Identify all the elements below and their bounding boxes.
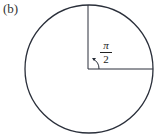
circle-diagram (0, 0, 157, 134)
angle-denominator: 2 (100, 53, 112, 65)
angle-numerator: π (100, 40, 112, 53)
angle-label: π 2 (100, 40, 112, 65)
